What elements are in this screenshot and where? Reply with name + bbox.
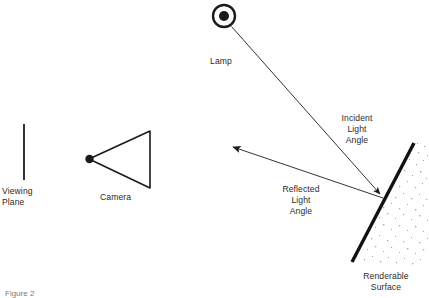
camera-symbol: [85, 131, 150, 188]
incident-ray: [232, 27, 381, 195]
figure-caption: Figure 2: [5, 289, 34, 298]
lamp-symbol: [213, 5, 235, 27]
camera-label: Camera: [100, 192, 131, 203]
incident-light-angle-label: Incident Light Angle: [331, 113, 383, 146]
surface-stipple-texture: [353, 141, 428, 264]
renderable-surface-line: [352, 143, 414, 262]
lamp-label: Lamp: [210, 56, 232, 67]
reflected-light-angle-label: Reflected Light Angle: [273, 184, 329, 217]
renderable-surface-label: Renderable Surface: [355, 271, 417, 293]
viewing-plane-label: Viewing Plane: [2, 186, 33, 208]
